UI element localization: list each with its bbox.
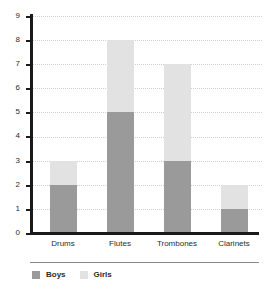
bar-segment-girls-flutes — [107, 40, 134, 112]
bar-segment-girls-drums — [50, 161, 77, 185]
gridline — [32, 88, 262, 89]
legend-swatch-girls — [80, 271, 88, 279]
y-tick-label: 9 — [0, 12, 20, 20]
plot-area — [32, 16, 262, 233]
y-tick-mark — [26, 16, 31, 18]
bar-segment-boys-clarinets — [221, 209, 248, 233]
legend-swatch-boys — [32, 271, 40, 279]
y-tick-mark — [26, 233, 31, 235]
y-tick-mark — [26, 112, 31, 114]
bar-drums — [50, 161, 77, 233]
gridline — [32, 16, 262, 17]
gridline — [32, 137, 262, 138]
bar-segment-boys-drums — [50, 185, 77, 233]
gridline — [32, 40, 262, 41]
y-tick-label: 7 — [0, 60, 20, 68]
y-tick-label: 5 — [0, 108, 20, 116]
y-tick-label: 8 — [0, 36, 20, 44]
y-tick-mark — [26, 185, 31, 187]
y-tick-mark — [26, 136, 31, 138]
y-tick-mark — [26, 40, 31, 42]
y-tick-mark — [26, 161, 31, 163]
bar-segment-girls-clarinets — [221, 185, 248, 209]
legend: Boys Girls — [32, 270, 112, 279]
bar-segment-boys-flutes — [107, 112, 134, 233]
y-tick-label: 2 — [0, 181, 20, 189]
bar-trombones — [164, 64, 191, 233]
bar-segment-boys-trombones — [164, 161, 191, 233]
y-tick-label: 3 — [0, 157, 20, 165]
stacked-bar-chart: 9 8 7 6 5 4 3 2 1 0 Drums Flutes Trombon… — [0, 0, 275, 294]
y-tick-mark — [26, 88, 31, 90]
legend-separator — [30, 262, 259, 263]
gridline — [32, 112, 262, 113]
y-tick-label: 1 — [0, 205, 20, 213]
gridline — [32, 64, 262, 65]
legend-label-boys: Boys — [46, 270, 66, 279]
legend-entry-girls: Girls — [80, 270, 112, 279]
y-tick-mark — [26, 64, 31, 66]
legend-entry-boys: Boys — [32, 270, 66, 279]
bar-segment-girls-trombones — [164, 64, 191, 160]
y-tick-mark — [26, 209, 31, 211]
x-axis-label-clarinets: Clarinets — [196, 239, 272, 248]
bar-clarinets — [221, 185, 248, 233]
y-tick-label: 6 — [0, 84, 20, 92]
x-axis-line — [30, 232, 259, 235]
bar-flutes — [107, 40, 134, 233]
y-axis-line — [30, 14, 33, 235]
y-tick-label: 4 — [0, 132, 20, 140]
legend-label-girls: Girls — [94, 270, 112, 279]
y-tick-label: 0 — [0, 229, 20, 237]
